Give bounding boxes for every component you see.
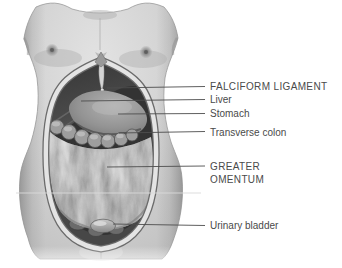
urinary-bladder — [91, 219, 116, 233]
labels: FALCIFORM LIGAMENT Liver Stomach Transve… — [210, 81, 327, 231]
label-urinary-bladder: Urinary bladder — [210, 220, 279, 231]
left-nipple-dot — [50, 48, 54, 52]
colon-highlight — [77, 132, 85, 137]
anatomy-illustration: FALCIFORM LIGAMENT Liver Stomach Transve… — [0, 0, 342, 268]
anatomy-figure: FALCIFORM LIGAMENT Liver Stomach Transve… — [0, 0, 342, 268]
colon-highlight — [90, 135, 98, 140]
label-transverse-colon: Transverse colon — [210, 127, 286, 138]
label-stomach: Stomach — [210, 108, 249, 119]
right-nipple-dot — [144, 50, 148, 54]
label-falciform-ligament: FALCIFORM LIGAMENT — [210, 81, 327, 92]
bladder-highlight — [94, 221, 107, 226]
leader-line-stomach — [118, 114, 205, 115]
label-greater-omentum: GREATER OMENTUM — [210, 161, 264, 186]
colon-highlight — [116, 134, 123, 138]
label-liver: Liver — [210, 94, 232, 105]
stomach-highlight — [92, 99, 132, 115]
label-greater-omentum-line2: OMENTUM — [210, 174, 264, 185]
colon-haustrum — [126, 129, 138, 141]
colon-highlight — [64, 127, 72, 132]
colon-highlight — [52, 122, 60, 127]
bottom-fade — [0, 246, 342, 268]
label-greater-omentum-line1: GREATER — [210, 161, 260, 172]
colon-highlight — [103, 136, 111, 141]
